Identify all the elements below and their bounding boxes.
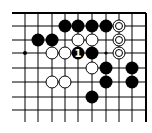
black-stone[interactable] bbox=[100, 62, 113, 75]
move-number-label: 1 bbox=[75, 48, 82, 59]
black-stone[interactable] bbox=[86, 47, 99, 60]
black-stone[interactable] bbox=[46, 34, 59, 47]
black-stone[interactable] bbox=[126, 62, 139, 75]
marked-white-stone[interactable] bbox=[113, 47, 125, 59]
black-stone[interactable] bbox=[126, 76, 139, 89]
white-stone[interactable] bbox=[46, 76, 58, 88]
white-stone[interactable] bbox=[46, 47, 58, 59]
marked-white-stone[interactable] bbox=[113, 34, 125, 46]
black-stone[interactable] bbox=[100, 76, 113, 89]
black-stone[interactable] bbox=[86, 91, 99, 104]
white-stone[interactable] bbox=[86, 34, 98, 46]
black-stone[interactable] bbox=[100, 20, 113, 33]
black-stone[interactable] bbox=[59, 20, 72, 33]
small-dot-marker bbox=[104, 51, 107, 54]
white-stone[interactable] bbox=[59, 47, 71, 59]
white-stone[interactable] bbox=[72, 34, 84, 46]
black-stone[interactable] bbox=[72, 20, 85, 33]
marked-white-stone[interactable] bbox=[113, 20, 125, 32]
black-stone[interactable] bbox=[32, 34, 45, 47]
black-stone[interactable] bbox=[86, 20, 99, 33]
star-point bbox=[23, 51, 27, 55]
white-stone[interactable] bbox=[59, 76, 71, 88]
go-board: 1 bbox=[0, 0, 152, 133]
white-stone[interactable] bbox=[86, 62, 98, 74]
